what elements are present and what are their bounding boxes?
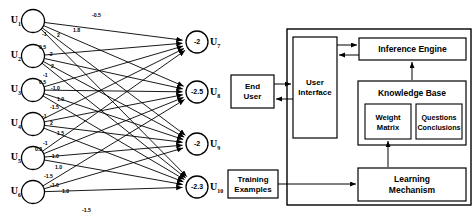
weight-label-u4-u9: 1.5 [57,130,64,136]
output-node-label-u9: U9 [210,138,220,154]
weight-label-u2-u9: 2 [51,63,54,69]
input-node-label-u5: U5 [1,151,21,167]
figure-canvas: U1U2U3U4U5U6-2U7-2.5U8-2U9-2.3U10-0.51.8… [0,0,474,218]
end-user-label: EndUser [231,82,274,102]
knowledge-base-label: Knowledge Base [358,88,466,99]
output-node-label-u8: U8 [210,86,220,102]
weight-label-u2-u10: -1 [43,72,48,78]
questions-conclusions-label: QuestionsConclusions [416,113,462,132]
inference-engine-label: Inference Engine [359,44,466,55]
weight-label-u4-u7: -1 [42,113,47,119]
user-interface-label: UserInterface [293,78,337,98]
input-node-label-u1: U1 [1,14,21,30]
weight-label-u5-u8: -1.0 [50,153,59,159]
weight-label-u6-u10: -1.5 [82,207,91,213]
weight-label-u6-u8: -1.0 [50,182,59,188]
weight-label-u1-u7: -0.5 [92,12,101,18]
input-node-label-u3: U3 [1,83,21,99]
input-node-label-u2: U2 [1,49,21,65]
output-node-label-u10: U10 [210,181,223,197]
output-node-threshold-u8: -2.5 [186,88,208,96]
weight-label-u4-u10: -1 [43,140,48,146]
output-node-threshold-u10: -2.3 [186,183,208,191]
output-node-threshold-u9: -2 [186,140,208,148]
weight-label-u5-u10: -1.5 [44,173,53,179]
weight-label-u6-u9: 1.0 [62,188,69,194]
output-node-threshold-u7: -2 [186,38,208,46]
weight-label-u1-u10: -1 [42,31,47,37]
training-examples-label: TrainingExamples [228,175,278,195]
weight-label-u3-u9: 1.0 [57,96,64,102]
weight-matrix-label: WeightMatrix [365,113,411,132]
weight-label-u2-u7: 0.5 [39,44,46,50]
weight-label-u5-u7: 0.3 [35,146,42,152]
learning-mechanism-label: LearningMechanism [358,174,466,196]
weight-label-u1-u8: 1.8 [73,27,80,33]
input-node-label-u6: U6 [1,185,21,201]
weight-label-u5-u9: 1.0 [55,164,62,170]
output-node-label-u7: U7 [210,36,220,52]
weight-label-u1-u9: 2 [57,32,60,38]
weight-label-u3-u10: -1.5 [50,104,59,110]
input-node-label-u4: U4 [1,117,21,133]
weight-label-u3-u7: 0.5 [39,79,46,85]
weight-label-u3-u8: -1.0 [51,85,60,91]
weight-label-u2-u8: -2 [48,51,53,57]
weight-label-u4-u8: 2 [50,120,53,126]
